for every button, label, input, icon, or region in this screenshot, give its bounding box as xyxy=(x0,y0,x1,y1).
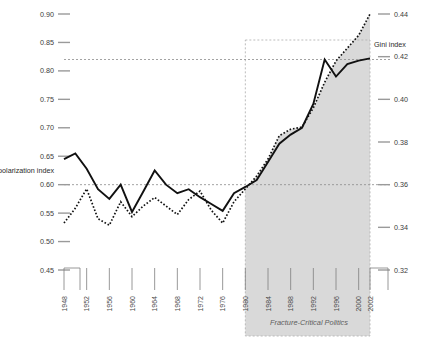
x-axis-year-label: 1988 xyxy=(287,296,294,312)
left-axis-title: polarization index xyxy=(0,166,54,175)
x-axis-year-label: 1964 xyxy=(151,296,158,312)
right-tick-label: 0.32 xyxy=(394,266,408,275)
chart-container: 0.900.850.800.750.700.650.600.550.500.45… xyxy=(0,0,428,347)
x-axis-year-label: 1948 xyxy=(61,296,68,312)
left-tick-label: 0.90 xyxy=(40,10,54,19)
right-tick-label: 0.40 xyxy=(394,95,408,104)
left-tick-label: 0.80 xyxy=(40,66,54,75)
x-axis-year-label: 1992 xyxy=(310,296,317,312)
x-axis-year-label: 2000 xyxy=(355,296,362,312)
x-axis-year-label: 1956 xyxy=(106,296,113,312)
polarization-gini-chart: 0.900.850.800.750.700.650.600.550.500.45… xyxy=(0,0,428,347)
x-axis-year-label: 2002 xyxy=(367,296,374,312)
left-tick-label: 0.85 xyxy=(40,38,54,47)
left-tick-label: 0.70 xyxy=(40,123,54,132)
left-tick-label: 0.50 xyxy=(40,237,54,246)
right-tick-label: 0.44 xyxy=(394,10,408,19)
right-tick-label: 0.38 xyxy=(394,138,408,147)
x-axis-year-label: 1972 xyxy=(197,296,204,312)
left-tick-label: 0.45 xyxy=(40,266,54,275)
x-axis-year-label: 1960 xyxy=(129,296,136,312)
x-axis-year-label: 1952 xyxy=(83,296,90,312)
right-tick-label: 0.36 xyxy=(394,180,408,189)
right-tick-label: 0.34 xyxy=(394,223,408,232)
x-axis-year-label: 1968 xyxy=(174,296,181,312)
left-tick-label: 0.60 xyxy=(40,180,54,189)
x-axis-year-label: 1984 xyxy=(265,296,272,312)
right-tick-label: 0.42 xyxy=(394,52,408,61)
x-axis-year-label: 1976 xyxy=(219,296,226,312)
x-axis-year-label: 1980 xyxy=(242,296,249,312)
left-tick-label: 0.65 xyxy=(40,152,54,161)
x-axis-year-label: 1996 xyxy=(333,296,340,312)
right-axis-title: Gini index xyxy=(374,40,406,49)
left-tick-label: 0.55 xyxy=(40,209,54,218)
left-tick-label: 0.75 xyxy=(40,95,54,104)
era-annotation-label: Fracture-Critical Politics xyxy=(270,318,348,327)
